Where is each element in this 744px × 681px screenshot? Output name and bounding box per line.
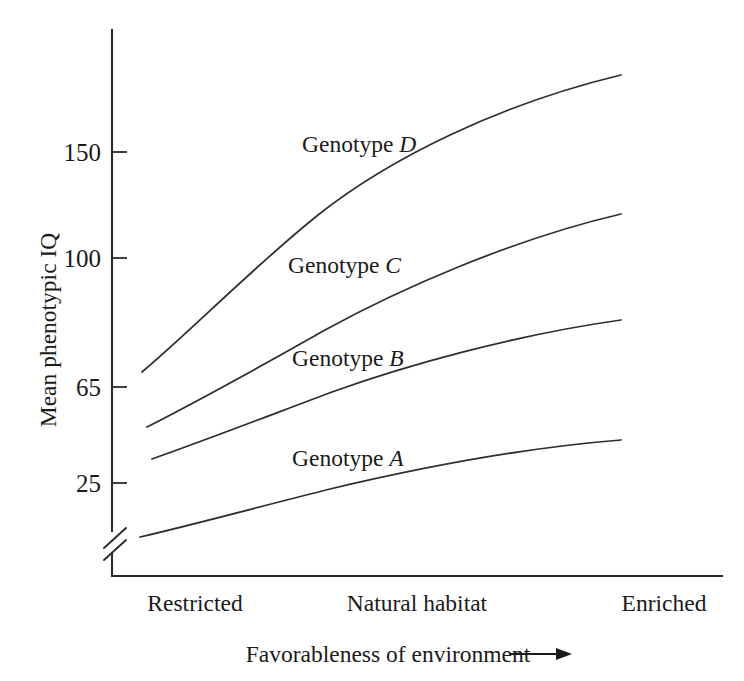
chart-canvas: 150 100 65 25 Mean phenotypic IQ Restric… — [0, 0, 744, 681]
curve-genotype-b — [152, 320, 621, 459]
series-label-genotype-a-italic: A — [387, 445, 404, 471]
x-tick-label-enriched: Enriched — [622, 590, 707, 616]
series-label-genotype-b-italic: B — [389, 345, 403, 371]
series-label-genotype-a: Genotype A — [292, 445, 404, 471]
y-tick-label-25: 25 — [76, 470, 101, 497]
x-tick-label-natural-habitat: Natural habitat — [347, 590, 488, 616]
axis-break-slash-upper — [104, 528, 126, 548]
y-tick-label-150: 150 — [64, 139, 102, 166]
y-tick-label-65: 65 — [76, 374, 101, 401]
series-label-genotype-d-italic: D — [398, 131, 416, 157]
x-axis-title: Favorableness of environment — [246, 641, 531, 667]
x-axis-arrow-head-icon — [556, 648, 572, 660]
axis-break-slash-lower — [104, 540, 126, 560]
chart-figure: 150 100 65 25 Mean phenotypic IQ Restric… — [0, 0, 744, 681]
curve-genotype-c — [147, 214, 621, 427]
series-label-genotype-c-italic: C — [385, 252, 401, 278]
series-label-genotype-d: Genotype D — [302, 131, 416, 157]
curve-genotype-d — [142, 75, 621, 372]
series-label-genotype-c: Genotype C — [288, 252, 401, 278]
series-label-genotype-b: Genotype B — [292, 345, 404, 371]
y-tick-label-100: 100 — [64, 245, 102, 272]
y-axis-title: Mean phenotypic IQ — [35, 233, 61, 428]
x-tick-label-restricted: Restricted — [147, 590, 243, 616]
